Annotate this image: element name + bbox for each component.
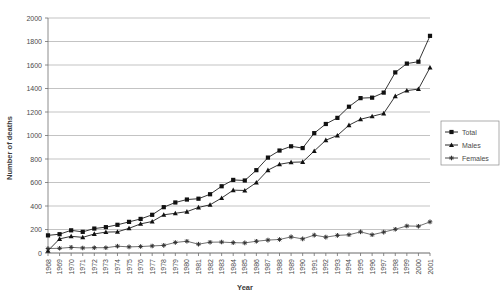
data-point [173,240,178,245]
data-point [139,217,143,221]
x-tick-label: 1996 [369,259,376,275]
x-tick-label: 1985 [241,259,248,275]
y-tick-label: 1000 [26,132,42,139]
data-point [162,205,166,209]
y-tick-label: 0 [38,250,42,257]
data-point [428,220,433,225]
x-tick-label: 1977 [149,259,156,275]
x-tick-label: 1971 [79,259,86,275]
x-tick-label: 1976 [137,259,144,275]
data-point [231,240,236,245]
data-point [150,244,155,249]
x-tick-label: 1988 [276,259,283,275]
x-tick-label: 1983 [218,259,225,275]
x-tick-label: 1992 [322,259,329,275]
data-point [335,116,339,120]
data-point [254,239,259,244]
x-tick-label: 1993 [334,259,341,275]
data-point [324,235,329,240]
x-axis-tick-labels: 1968196919701971197219731974197519761977… [45,259,434,275]
x-tick-label: 1984 [230,259,237,275]
data-series-group [46,34,433,253]
data-point [115,223,119,227]
data-point [312,131,316,135]
x-axis-tick-marks [48,253,430,256]
data-point [300,237,305,242]
data-point [335,233,340,238]
x-tick-label: 1968 [45,259,52,275]
data-point [416,60,420,64]
data-point [347,232,352,237]
data-point [69,228,73,232]
data-point [346,123,351,128]
data-point [150,213,154,217]
x-tick-label: 1998 [392,259,399,275]
x-tick-label: 1995 [357,259,364,275]
data-point [393,227,398,232]
x-tick-label: 1969 [56,259,63,275]
x-tick-label: 1981 [195,259,202,275]
data-point [289,144,293,148]
data-point [208,240,213,245]
x-tick-label: 1986 [253,259,260,275]
data-point [231,178,235,182]
legend-label: Males [462,142,481,149]
x-tick-label: 1987 [264,259,271,275]
data-point [243,178,247,182]
data-point [405,224,410,229]
y-axis-tick-labels: 0200400600800100012001400160018002000 [26,15,42,257]
data-point [92,245,97,250]
x-tick-label: 1975 [126,259,133,275]
data-point [185,197,189,201]
x-tick-label: 1997 [380,259,387,275]
data-point [80,246,85,251]
data-point [301,146,305,150]
x-tick-label: 1991 [311,259,318,275]
x-tick-label: 1974 [114,259,121,275]
data-point [370,232,375,237]
data-point [196,197,200,201]
data-point [382,91,386,95]
y-tick-label: 1400 [26,85,42,92]
data-point [449,156,454,161]
line-chart: 0200400600800100012001400160018002000 19… [0,0,504,295]
data-point [381,230,386,235]
data-point [81,230,85,234]
data-point [358,230,363,235]
data-point [254,168,258,172]
x-tick-label: 1973 [102,259,109,275]
data-point [92,226,96,230]
y-tick-label: 600 [30,179,42,186]
x-tick-label: 1982 [207,259,214,275]
y-tick-label: 400 [30,203,42,210]
data-point [220,184,224,188]
data-point [405,61,409,65]
y-tick-label: 1800 [26,38,42,45]
y-tick-label: 200 [30,226,42,233]
data-point [416,224,421,229]
series-females [46,220,433,251]
data-point [69,245,74,250]
data-point [173,200,177,204]
data-point [347,105,351,109]
data-point [57,246,62,251]
gridlines-group [45,18,430,253]
data-point [150,219,155,224]
data-point [265,168,270,173]
data-point [46,246,51,251]
x-tick-label: 1990 [299,259,306,275]
data-point [138,244,143,249]
data-point [208,202,213,207]
data-point [449,130,453,134]
data-point [428,34,432,38]
y-tick-label: 1600 [26,62,42,69]
data-point [104,225,108,229]
x-tick-label: 2000 [415,259,422,275]
chart-legend: TotalMalesFemales [441,121,499,165]
y-tick-label: 2000 [26,15,42,22]
data-point [219,240,224,245]
data-point [393,70,397,74]
legend-label: Total [462,129,477,136]
x-tick-label: 1999 [403,259,410,275]
data-point [104,245,109,250]
